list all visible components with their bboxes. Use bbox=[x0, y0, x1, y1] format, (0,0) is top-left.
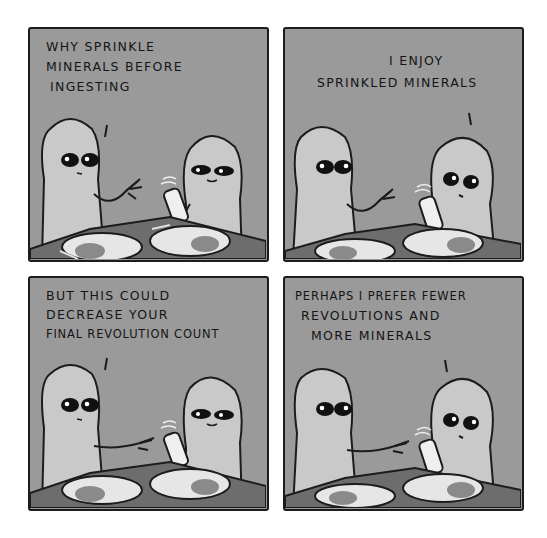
comic-panel-1: WHY SPRINKLE MINERALS BEFORE INGESTING bbox=[28, 27, 269, 262]
comic-panel-2: I ENJOY SPRINKLED MINERALS bbox=[283, 27, 524, 262]
speech-line: SPRINKLED MINERALS bbox=[317, 73, 478, 93]
speech-line: MINERALS BEFORE bbox=[46, 57, 183, 77]
speech-line: REVOLUTIONS AND bbox=[301, 306, 441, 326]
speech-line: I ENJOY bbox=[389, 51, 444, 71]
speech-line: INGESTING bbox=[50, 77, 131, 97]
speech-line: DECREASE YOUR bbox=[46, 305, 169, 325]
comic-panel-4: PERHAPS I PREFER FEWER REVOLUTIONS AND M… bbox=[283, 276, 524, 511]
comic-panel-3: BUT THIS COULD DECREASE YOUR FINAL REVOL… bbox=[28, 276, 269, 511]
speech-line: WHY SPRINKLE bbox=[46, 37, 155, 57]
speech-line: MORE MINERALS bbox=[311, 326, 432, 346]
speech-line: BUT THIS COULD bbox=[46, 286, 170, 306]
speech-line: PERHAPS I PREFER FEWER bbox=[295, 286, 467, 306]
speech-line: FINAL REVOLUTION COUNT bbox=[46, 324, 219, 344]
